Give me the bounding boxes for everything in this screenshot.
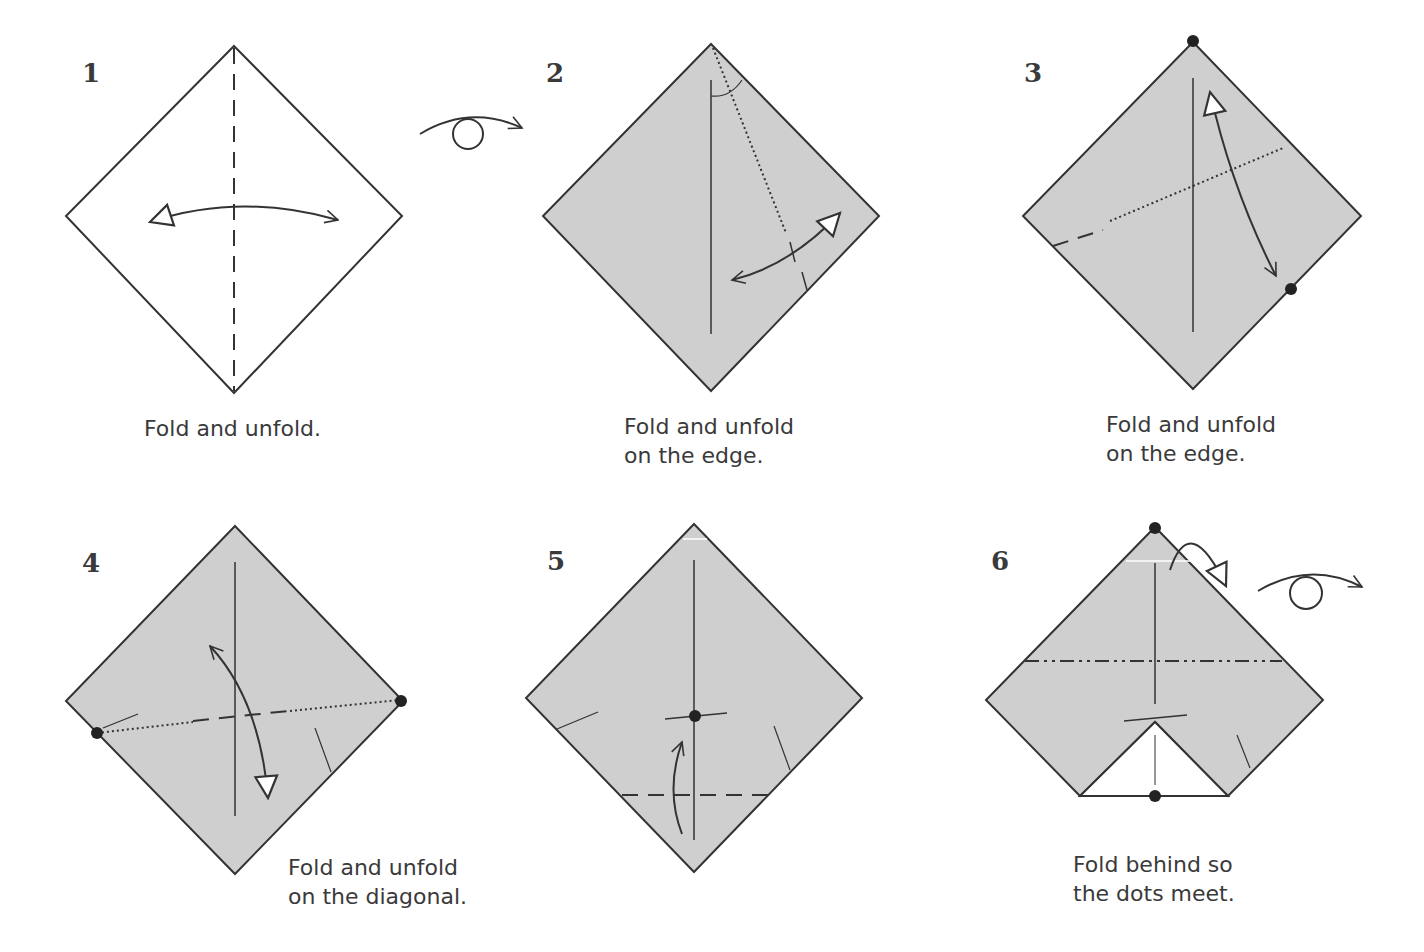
reference-dot bbox=[1149, 790, 1161, 802]
step-number-4: 4 bbox=[82, 548, 100, 578]
diagram-drawing bbox=[0, 0, 1424, 952]
step-number-3: 3 bbox=[1024, 58, 1042, 88]
reference-dot bbox=[1149, 522, 1161, 534]
reference-dot bbox=[91, 727, 103, 739]
turn-over-icon bbox=[1258, 574, 1362, 609]
reference-dot bbox=[689, 710, 701, 722]
turn-over-icon bbox=[420, 117, 522, 149]
reference-dot bbox=[1187, 35, 1199, 47]
step-number-2: 2 bbox=[546, 58, 564, 88]
step-4-caption: Fold and unfold on the diagonal. bbox=[288, 853, 467, 911]
step-6-caption: Fold behind so the dots meet. bbox=[1073, 850, 1235, 908]
origami-diagram-sheet: 1 2 3 4 5 6 Fold and unfold. Fold and un… bbox=[0, 0, 1424, 952]
step-4-diagram bbox=[66, 526, 407, 874]
step-2-diagram bbox=[543, 44, 879, 391]
paper-square-colored bbox=[1023, 42, 1361, 389]
step-number-1: 1 bbox=[82, 58, 100, 88]
step-3-diagram bbox=[1023, 35, 1361, 389]
step-number-6: 6 bbox=[991, 546, 1009, 576]
reference-dot bbox=[395, 695, 407, 707]
step-1-caption: Fold and unfold. bbox=[144, 414, 321, 443]
reference-dot bbox=[1285, 283, 1297, 295]
step-number-5: 5 bbox=[547, 546, 565, 576]
step-3-caption: Fold and unfold on the edge. bbox=[1106, 410, 1276, 468]
step-5-diagram bbox=[526, 524, 862, 872]
step-6-diagram bbox=[986, 522, 1323, 802]
step-2-caption: Fold and unfold on the edge. bbox=[624, 412, 794, 470]
step-1-diagram bbox=[66, 46, 402, 393]
